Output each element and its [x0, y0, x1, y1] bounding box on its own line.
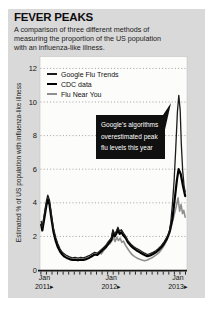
y-tick-label: 10 [22, 98, 37, 107]
legend-label: Google Flu Trends [61, 71, 119, 78]
x-tick-year: 2011▸ [28, 283, 62, 292]
x-tick-label: Jan2011▸ [28, 274, 62, 292]
x-tick-month: Jan [94, 274, 128, 283]
legend-item-google-flu-trends: Google Flu Trends [47, 69, 119, 79]
chart-title: FEVER PEAKS [14, 11, 93, 23]
legend-item-flu-near-you: Flu Near You [47, 89, 119, 99]
google-flu-trends-line-swatch [47, 73, 57, 75]
flu-chart-figure: FEVER PEAKS A comparison of three differ… [0, 0, 213, 316]
x-tick-year: 2013▸ [161, 283, 195, 292]
flu-near-you-line-swatch [47, 93, 57, 95]
y-tick-label: 4 [22, 198, 37, 207]
cdc-data-line-swatch [47, 83, 57, 85]
annotation-callout: Google's algorithms overestimated peak f… [96, 115, 165, 159]
x-tick-year: 2012▸ [94, 283, 128, 292]
annotation-line: Google's algorithms [101, 119, 165, 131]
subtitle-line: with an influenza-like illness. [14, 44, 161, 53]
x-tick-label: Jan2012▸ [94, 274, 128, 292]
chart-legend: Google Flu Trends CDC data Flu Near You [47, 69, 119, 99]
legend-item-cdc-data: CDC data [47, 79, 119, 89]
annotation-line: flu levels this year [101, 142, 165, 154]
y-tick-label: 2 [22, 232, 37, 241]
chart-subtitle: A comparison of three different methods … [14, 26, 161, 52]
legend-label: CDC data [61, 81, 92, 88]
y-tick-label: 8 [22, 131, 37, 140]
y-axis-title: Estimated % of US population with influe… [15, 58, 22, 268]
y-tick-label: 12 [22, 64, 37, 73]
x-tick-month: Jan [161, 274, 195, 283]
legend-label: Flu Near You [61, 91, 101, 98]
x-tick-label: Jan2013▸ [161, 274, 195, 292]
annotation-line: overestimated peak [101, 131, 165, 143]
x-tick-month: Jan [28, 274, 62, 283]
y-tick-label: 6 [22, 165, 37, 174]
